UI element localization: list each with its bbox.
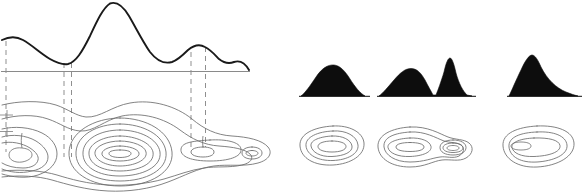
figure-root <box>0 0 585 194</box>
diagram-canvas <box>0 0 585 194</box>
